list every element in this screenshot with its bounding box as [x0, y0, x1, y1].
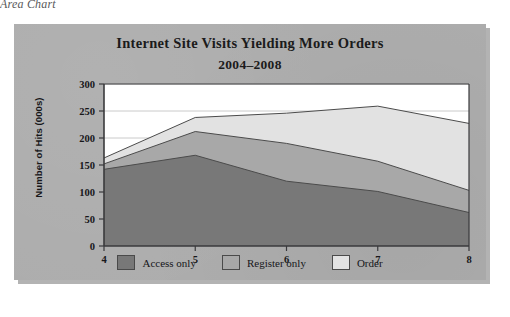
legend-label-access-only: Access only [142, 257, 195, 269]
legend-label-register-only: Register only [247, 257, 306, 269]
legend-item: Access only [117, 255, 195, 270]
y-axis-tick-label: 150 [79, 160, 95, 171]
area-chart-svg: 05010015020025030045678 [14, 24, 486, 280]
legend-swatch-access-only [117, 255, 135, 270]
plot-area: 05010015020025030045678 [14, 24, 486, 280]
y-axis-tick-label: 50 [85, 214, 96, 225]
legend-item: Register only [222, 255, 306, 270]
y-axis-tick-label: 300 [79, 79, 95, 90]
y-axis-tick-label: 200 [79, 133, 95, 144]
y-axis-tick-label: 0 [90, 241, 95, 252]
figure-caption: Area Chart [0, 0, 56, 12]
legend-item: Order [332, 255, 383, 270]
y-axis-tick-label: 250 [79, 106, 95, 117]
y-axis-tick-label: 100 [79, 187, 95, 198]
legend-swatch-order [332, 255, 350, 270]
legend-swatch-register-only [222, 255, 240, 270]
legend-label-order: Order [357, 257, 383, 269]
chart-panel: Internet Site Visits Yielding More Order… [14, 24, 486, 280]
chart-legend: Access only Register only Order [14, 255, 486, 270]
